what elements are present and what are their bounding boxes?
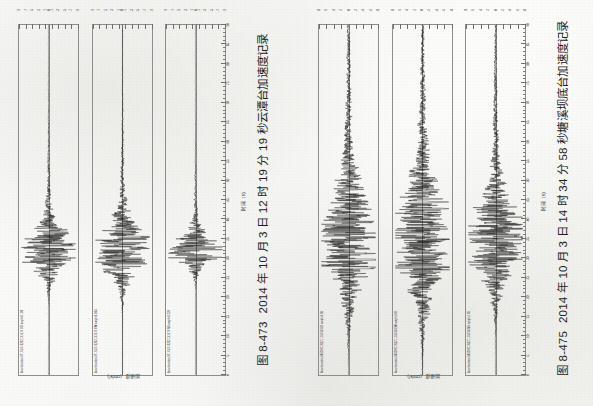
waveform-panel: Acceleration 385DXC16321143458 NS ampl=2… bbox=[465, 24, 526, 376]
x-tick-label: 55 bbox=[226, 159, 230, 163]
x-tick-label: 15 bbox=[526, 315, 530, 319]
panel-record-label: Acceleration 385DXC16321143458 NS ampl=2… bbox=[468, 311, 471, 373]
figure-8-475: Acceleration 385DXC16321143458 UD ampl=3… bbox=[318, 24, 580, 376]
y-tick-label: -8 bbox=[523, 9, 527, 12]
x-tick-label: 5 bbox=[526, 355, 530, 357]
y-tick-label: 4 bbox=[405, 9, 409, 11]
y-tick-label: -5 bbox=[63, 9, 67, 12]
x-tick-label: 5 bbox=[226, 355, 230, 357]
y-tick-label: -5 bbox=[210, 9, 214, 12]
y-tick-label: 1 bbox=[190, 9, 194, 11]
x-tick-label: 30 bbox=[526, 257, 530, 261]
x-tick-label: 35 bbox=[226, 237, 230, 241]
x-tick-label: 25 bbox=[526, 276, 530, 280]
x-tick-label: 85 bbox=[226, 43, 230, 47]
y-tick-label: 8 bbox=[464, 9, 468, 11]
x-tick-label: 70 bbox=[526, 101, 530, 105]
y-tick-label: 2 bbox=[486, 9, 490, 11]
y-tick-label: 9 bbox=[91, 9, 95, 11]
x-tick-label: 0 bbox=[526, 374, 530, 376]
y-tick-label: 6 bbox=[324, 9, 328, 11]
waveform-panel: Acceleration 371XLX10202131819 EW ampl=0… bbox=[92, 24, 153, 376]
y-tick-label: -4 bbox=[435, 9, 439, 12]
y-axis-tick-labels: -8-6-4-202468 bbox=[319, 9, 378, 24]
panel-record-label: Acceleration 385DXC16321143458 EW ampl=3… bbox=[395, 310, 398, 373]
x-axis-title: 时间（s） bbox=[240, 24, 246, 376]
panel-group-8-475: Acceleration 385DXC16321143458 UD ampl=3… bbox=[318, 24, 526, 376]
figure-number: 图 8-475 bbox=[557, 331, 569, 376]
figure-caption: 图 8-4732014 年 10 月 3 日 12 时 19 分 19 秒云潭台… bbox=[254, 24, 270, 376]
y-tick-label: 3 bbox=[184, 9, 188, 11]
x-tick-label: 80 bbox=[526, 62, 530, 66]
y-tick-label: -5 bbox=[136, 9, 140, 12]
x-axis-title: 时间（s） bbox=[540, 24, 546, 376]
x-axis-tick-labels: 051015202530354045505560657075808590 bbox=[526, 25, 536, 375]
y-tick-label: -7 bbox=[143, 9, 147, 12]
x-tick-label: 65 bbox=[526, 120, 530, 124]
x-tick-label: 10 bbox=[526, 334, 530, 338]
panel-record-label: Acceleration 385DXC16321143458 UD ampl=3… bbox=[321, 311, 324, 373]
y-tick-label: 1 bbox=[117, 9, 121, 11]
y-tick-label: -4 bbox=[508, 9, 512, 12]
x-tick-label: 75 bbox=[526, 82, 530, 86]
panel-record-label: Acceleration 371XLX10202131819 UD ampl=0… bbox=[21, 310, 24, 373]
y-tick-label: -3 bbox=[130, 9, 134, 12]
x-tick-label: 80 bbox=[226, 62, 230, 66]
acceleration-trace bbox=[319, 25, 378, 375]
x-tick-label: 25 bbox=[226, 276, 230, 280]
y-tick-label: 6 bbox=[398, 9, 402, 11]
x-tick-label: 50 bbox=[226, 179, 230, 183]
x-axis-tick-labels: 051015202530354045505560657075808590 bbox=[226, 25, 236, 375]
x-tick-label: 15 bbox=[226, 315, 230, 319]
y-tick-label: 2 bbox=[339, 9, 343, 11]
acceleration-trace bbox=[93, 25, 152, 375]
y-tick-label: 4 bbox=[332, 9, 336, 11]
y-tick-label: 0 bbox=[420, 9, 424, 11]
figure-number: 图 8-473 bbox=[257, 321, 269, 366]
y-tick-label: 7 bbox=[97, 9, 101, 11]
acceleration-trace bbox=[19, 25, 78, 375]
y-tick-label: -9 bbox=[223, 9, 227, 12]
waveform-panel: Acceleration 371XLX10202131819 NS ampl=0… bbox=[165, 24, 226, 376]
y-tick-label: 3 bbox=[37, 9, 41, 11]
y-axis-tick-labels: -9-7-5-3-1013579 bbox=[19, 9, 78, 24]
panel-record-label: Acceleration 371XLX10202131819 NS ampl=0… bbox=[168, 310, 171, 373]
x-tick-label: 10 bbox=[226, 334, 230, 338]
waveform-panel: Acceleration 371XLX10202131819 UD ampl=0… bbox=[18, 24, 79, 376]
y-axis-ticks bbox=[319, 24, 378, 29]
figure-caption: 图 8-4752014 年 10 月 3 日 14 时 34 分 58 秒塘溪坝… bbox=[554, 24, 570, 376]
y-tick-label: 0 bbox=[347, 9, 351, 11]
y-tick-label: -7 bbox=[216, 9, 220, 12]
y-axis-tick-labels: -8-6-4-202468 bbox=[466, 9, 525, 24]
x-tick-label: 45 bbox=[226, 198, 230, 202]
y-tick-label: -9 bbox=[150, 9, 154, 12]
y-tick-label: 1 bbox=[43, 9, 47, 11]
y-tick-label: -7 bbox=[69, 9, 73, 12]
y-tick-label: 7 bbox=[171, 9, 175, 11]
x-tick-label: 65 bbox=[226, 120, 230, 124]
x-tick-label: 60 bbox=[526, 140, 530, 144]
x-tick-label: 55 bbox=[526, 159, 530, 163]
x-tick-label: 45 bbox=[526, 198, 530, 202]
y-tick-label: 3 bbox=[110, 9, 114, 11]
x-tick-label: 40 bbox=[526, 218, 530, 222]
waveform-panel: Acceleration 385DXC16321143458 UD ampl=3… bbox=[318, 24, 379, 376]
x-tick-label: 85 bbox=[526, 43, 530, 47]
x-tick-label: 75 bbox=[226, 82, 230, 86]
acceleration-trace bbox=[166, 25, 225, 375]
y-tick-label: 8 bbox=[391, 9, 395, 11]
y-tick-label: -6 bbox=[516, 9, 520, 12]
y-tick-label: 0 bbox=[494, 9, 498, 11]
y-tick-label: 9 bbox=[164, 9, 168, 11]
y-tick-label: -2 bbox=[354, 9, 358, 12]
y-axis-ticks bbox=[93, 24, 152, 29]
y-tick-label: -3 bbox=[56, 9, 60, 12]
x-tick-label: 40 bbox=[226, 218, 230, 222]
x-tick-label: 50 bbox=[526, 179, 530, 183]
x-tick-label: 35 bbox=[526, 237, 530, 241]
x-tick-label: 60 bbox=[226, 140, 230, 144]
y-tick-label: 9 bbox=[17, 9, 21, 11]
y-tick-label: -3 bbox=[203, 9, 207, 12]
y-axis-ticks bbox=[466, 24, 525, 29]
y-tick-label: -9 bbox=[76, 9, 80, 12]
